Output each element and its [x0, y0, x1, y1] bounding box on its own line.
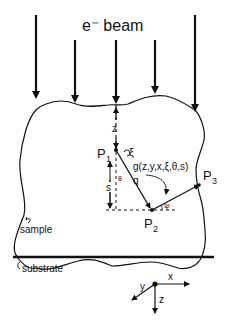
- axis-z-label: z: [159, 294, 164, 305]
- psi-label: ψ: [164, 201, 170, 210]
- p2-label: P: [144, 216, 153, 231]
- sample-label: sample: [20, 224, 53, 235]
- svg-text:2: 2: [153, 224, 158, 234]
- g-function-label: g(z,y,x,ξ,θ,s): [133, 161, 188, 173]
- substrate-label: substrate: [22, 263, 64, 274]
- electron-beam-diagram: e⁻ beam z P 1 ξ s θ q P 2 ψ P 3 g(z,y,x,…: [0, 0, 226, 326]
- p2-p3-ray: [152, 185, 199, 210]
- z-label: z: [112, 123, 117, 134]
- beam-title: e⁻ beam: [82, 17, 143, 34]
- s-label: s: [106, 182, 111, 193]
- axis-x-label: x: [168, 271, 173, 282]
- p3-label: P: [203, 168, 212, 183]
- axis-y-label: y: [140, 281, 145, 292]
- q-label: q: [133, 175, 139, 186]
- p1-label: P: [97, 146, 106, 161]
- svg-text:3: 3: [212, 176, 217, 186]
- xi-label: ξ: [129, 146, 134, 158]
- point-p3: [197, 183, 201, 187]
- theta-label: θ: [118, 175, 122, 182]
